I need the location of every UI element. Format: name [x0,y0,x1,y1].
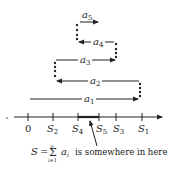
caption-upper-limit: ∞ [50,143,54,149]
term-arrow-a5: a5 [80,9,98,22]
series-diagram: a5 a4 a3 a2 a1 s [0,0,172,171]
connector-dots [76,24,78,40]
caption-term: ai [61,146,69,158]
tick-label-S5: S5 [96,123,107,136]
caption-lower-limit: i=1 [48,157,57,163]
axis-origin-mark: s [6,115,8,120]
tick-label-S1: S1 [138,123,149,136]
term-arrow-a3: a3 [56,54,115,67]
tick-label-S2: S2 [47,123,58,136]
caption-lhs: S [31,146,38,157]
tick-label-0: 0 [25,123,31,134]
caption-equals: = [40,146,48,157]
term-arrow-a4: a4 [79,36,114,49]
connector-dots [115,43,117,58]
term-label-a5: a5 [82,9,92,22]
caption-text: is somewhere in here [75,147,167,157]
term-arrow-a1: a1 [30,93,138,106]
number-line: s 0 S2 S4 S5 S3 S1 [6,113,162,136]
connector-dots [54,62,56,77]
caption: S = Σ ∞ i=1 ai is somewhere in here [31,143,167,163]
tick-label-S4: S4 [72,123,84,136]
tick-label-S3: S3 [113,123,124,136]
term-arrow-a2: a2 [57,75,139,88]
connector-dots [139,83,141,97]
